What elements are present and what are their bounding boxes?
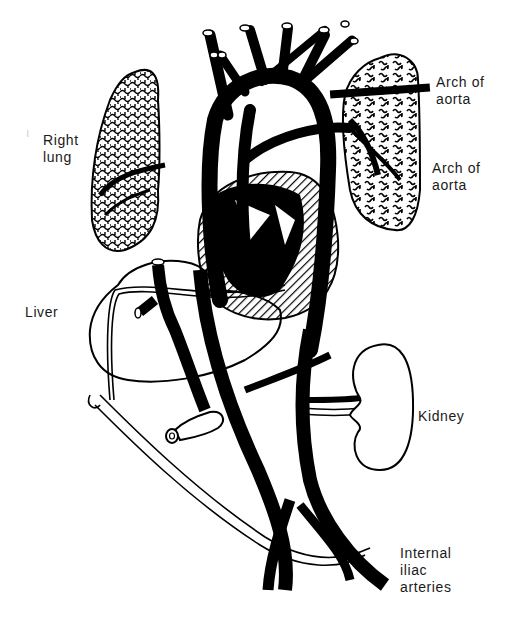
fetal-circulation-diagram xyxy=(0,0,508,621)
label-kidney: Kidney xyxy=(418,408,464,425)
stray-mark: ı xyxy=(26,126,29,140)
label-internal-iliac-arteries: Internal iliac arteries xyxy=(400,545,452,596)
right-lung-shape xyxy=(92,70,165,251)
label-arch-of-aorta-top: Arch of aorta xyxy=(436,74,485,108)
label-liver: Liver xyxy=(25,304,58,321)
kidney-shape xyxy=(350,344,413,470)
label-right-lung: Right lung xyxy=(43,132,79,166)
label-arch-of-aorta-right: Arch of aorta xyxy=(432,160,481,194)
left-lung-shape xyxy=(343,54,420,230)
